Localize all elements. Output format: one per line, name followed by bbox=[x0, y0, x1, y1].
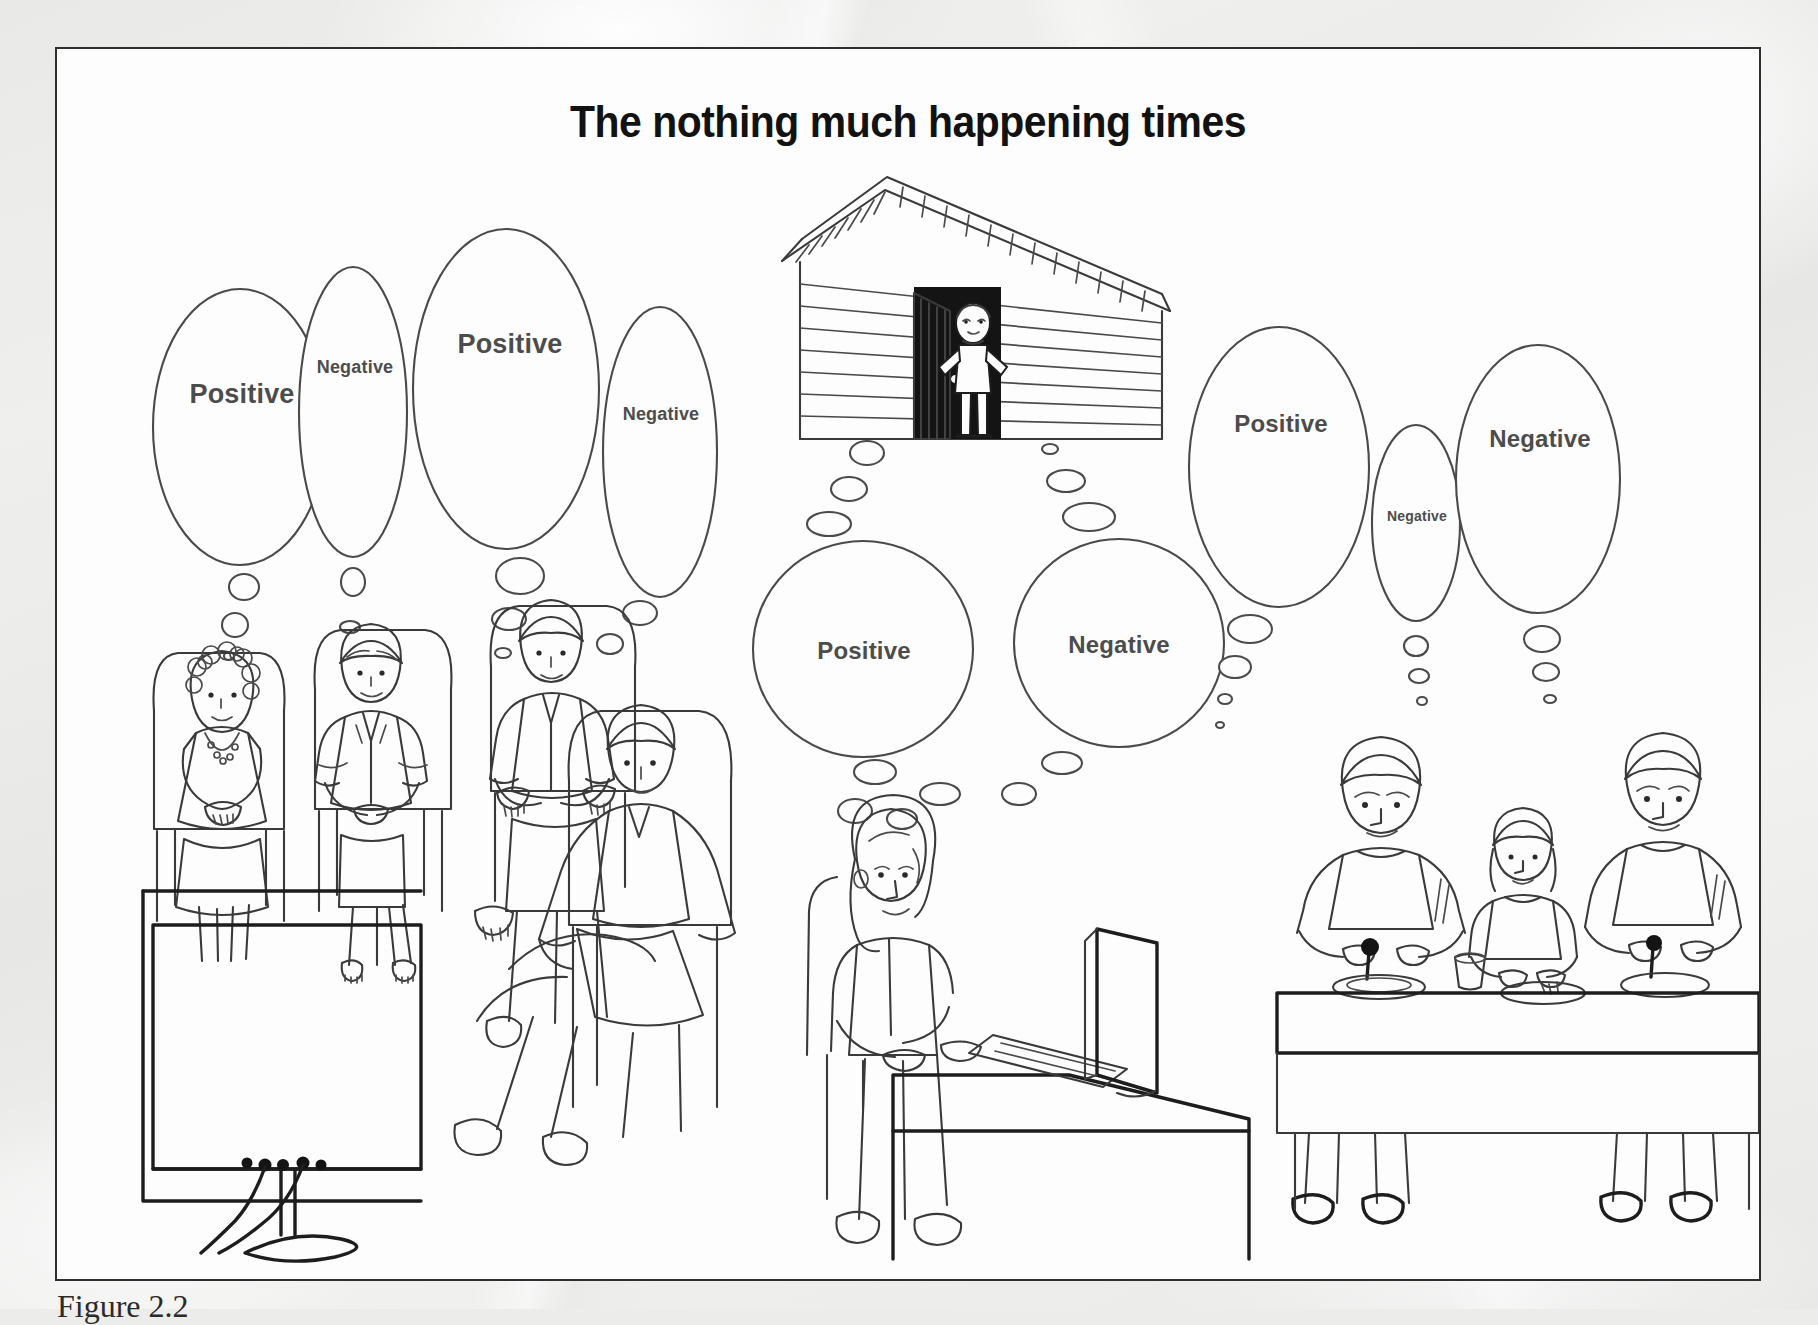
diner-child-middle bbox=[1455, 808, 1585, 1004]
bubble-group-dining-family bbox=[1189, 327, 1620, 728]
bubble-label-tv3-negative: Negative bbox=[623, 404, 700, 425]
bubble-label-tv2-positive: Positive bbox=[457, 329, 562, 360]
bubble-label-computer-negative: Negative bbox=[1068, 631, 1170, 659]
scene-dining-family bbox=[1277, 733, 1759, 1223]
bubble-label-diner3-negative: Negative bbox=[1489, 425, 1591, 453]
figure-frame: The nothing much happening times .ln{fil… bbox=[55, 47, 1761, 1281]
bubble-group-tv-viewers bbox=[153, 229, 717, 660]
bubble-label-diner1-positive: Positive bbox=[1234, 410, 1328, 438]
tv-viewer-person-2 bbox=[315, 624, 427, 983]
scene-tv-viewers bbox=[143, 600, 735, 1261]
diner-adult-left bbox=[1297, 737, 1465, 999]
shed-house bbox=[782, 177, 1170, 439]
bubble-label-diner2-negative: Negative bbox=[1387, 508, 1447, 524]
bubble-label-tv1-positive: Positive bbox=[189, 379, 294, 410]
bubble-label-tv1-negative: Negative bbox=[317, 357, 394, 378]
television bbox=[143, 891, 421, 1261]
tv-viewer-person-1 bbox=[176, 642, 268, 961]
diner-adult-right bbox=[1585, 733, 1741, 997]
scene-computer-user bbox=[807, 795, 1249, 1259]
bubble-label-computer-positive: Positive bbox=[817, 637, 911, 665]
figure-caption: Figure 2.2 bbox=[57, 1288, 189, 1325]
tv-viewer-person-3 bbox=[486, 600, 615, 1047]
tv-viewer-person-4 bbox=[454, 705, 735, 1165]
